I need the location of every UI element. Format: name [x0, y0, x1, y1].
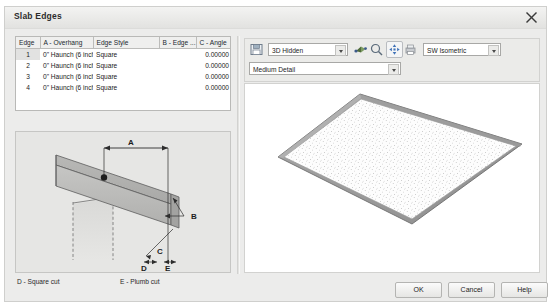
- cell-overhang: 0" Haunch (6 inch slab): [40, 82, 93, 93]
- cell-b-edge: [159, 82, 196, 93]
- close-icon[interactable]: [523, 9, 540, 26]
- table-row[interactable]: 10" Haunch (6 inch slab)Square0.00000: [16, 49, 231, 60]
- table-header-row: Edge A - Overhang Edge Style B - Edge ..…: [16, 37, 231, 49]
- cell-b-edge: [159, 60, 196, 71]
- shade-icon[interactable]: [353, 42, 368, 57]
- cell-edge: 1: [16, 49, 40, 60]
- column-header-edge[interactable]: Edge: [16, 37, 40, 49]
- cell-edge-style: Square: [93, 82, 159, 93]
- panel-splitter[interactable]: [237, 36, 240, 274]
- cell-edge: 3: [16, 71, 40, 82]
- table-row[interactable]: 40" Haunch (6 inch slab)Square0.00000: [16, 82, 231, 93]
- view-direction-combo[interactable]: SW Isometric: [423, 43, 501, 56]
- cell-c-angle: 0.00000: [196, 82, 231, 93]
- chevron-down-icon[interactable]: [388, 64, 399, 75]
- slab-3d-viewport[interactable]: [244, 83, 540, 273]
- cell-c-angle: 0.00000: [196, 60, 231, 71]
- edges-table: Edge A - Overhang Edge Style B - Edge ..…: [16, 37, 231, 93]
- view-direction-value: SW Isometric: [427, 47, 466, 54]
- cell-edge: 4: [16, 82, 40, 93]
- edge-diagram-panel: A B C D E: [15, 131, 231, 273]
- table-row[interactable]: 30" Haunch (6 inch slab)Square0.00000: [16, 71, 231, 82]
- column-header-edge-style[interactable]: Edge Style: [93, 37, 159, 49]
- diagram-label-c: C: [157, 247, 163, 256]
- column-header-b-edge[interactable]: B - Edge ...: [159, 37, 196, 49]
- visual-style-value: 3D Hidden: [272, 47, 303, 54]
- cell-overhang: 0" Haunch (6 inch slab): [40, 71, 93, 82]
- cell-edge-style: Square: [93, 49, 159, 60]
- cell-c-angle: 0.00000: [196, 49, 231, 60]
- column-header-c-angle[interactable]: C - Angle: [196, 37, 231, 49]
- edges-table-panel[interactable]: Edge A - Overhang Edge Style B - Edge ..…: [15, 36, 231, 111]
- screenshot-root: Slab Edges Edge: [0, 0, 551, 308]
- save-icon[interactable]: [249, 42, 264, 57]
- zoom-icon[interactable]: [369, 42, 384, 57]
- diagram-label-d: D: [141, 264, 147, 272]
- cell-edge: 2: [16, 60, 40, 71]
- pan-icon[interactable]: [386, 41, 403, 58]
- cell-overhang: 0" Haunch (6 inch slab): [40, 60, 93, 71]
- column-header-overhang[interactable]: A - Overhang: [40, 37, 93, 49]
- title-bar: Slab Edges: [5, 7, 546, 29]
- diagram-label-a: A: [128, 138, 134, 147]
- dialog-title: Slab Edges: [14, 11, 62, 21]
- help-button[interactable]: Help: [501, 282, 548, 298]
- table-row[interactable]: 20" Haunch (6 inch slab)Square0.00000: [16, 60, 231, 71]
- chevron-down-icon[interactable]: [335, 45, 346, 56]
- slab-3d-model: [245, 84, 539, 272]
- cell-c-angle: 0.00000: [196, 71, 231, 82]
- cell-edge-style: Square: [93, 60, 159, 71]
- cell-overhang: 0" Haunch (6 inch slab): [40, 49, 93, 60]
- diagram-label-b: B: [191, 212, 197, 221]
- detail-level-value: Medium Detail: [253, 66, 295, 73]
- print-icon[interactable]: [403, 42, 418, 57]
- slab-edges-dialog: Slab Edges Edge: [4, 6, 547, 302]
- edge-diagram: A B C D E: [16, 132, 230, 272]
- caption-plumb-cut: E - Plumb cut: [120, 278, 160, 285]
- cell-b-edge: [159, 71, 196, 82]
- caption-square-cut: D - Square cut: [17, 278, 60, 285]
- visual-style-combo[interactable]: 3D Hidden: [268, 43, 348, 56]
- table-body: 10" Haunch (6 inch slab)Square0.0000020"…: [16, 49, 231, 93]
- cell-b-edge: [159, 49, 196, 60]
- chevron-down-icon[interactable]: [488, 45, 499, 56]
- ok-button[interactable]: OK: [395, 282, 442, 298]
- cancel-button[interactable]: Cancel: [448, 282, 495, 298]
- cell-edge-style: Square: [93, 71, 159, 82]
- viewport-toolbar: 3D Hidden: [244, 38, 540, 82]
- diagram-label-e: E: [165, 264, 171, 272]
- detail-level-combo[interactable]: Medium Detail: [249, 62, 401, 75]
